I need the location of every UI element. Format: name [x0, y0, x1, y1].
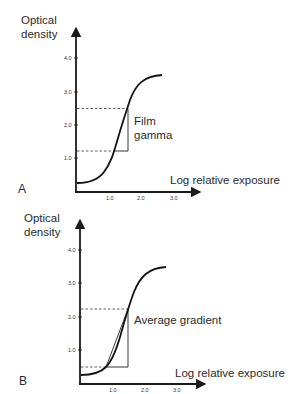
y-axis-label-line1: Optical: [21, 14, 57, 26]
x-axis-label: Log relative exposure: [175, 367, 285, 379]
annotation-film: Film: [134, 115, 156, 127]
y-axis-label-line2: density: [21, 28, 58, 40]
y-tick-label: 4.0: [68, 247, 76, 253]
x-ticks: 1.0 2.0 3.0: [109, 387, 181, 393]
panel-label-b: B: [19, 374, 27, 388]
panel-label-a: A: [18, 182, 26, 196]
y-tick-label: 1.0: [68, 347, 76, 353]
characteristic-curve-figure: Optical density 4.0 3.0 2.0 1.0 1.0 2.0 …: [0, 0, 291, 394]
x-tick-label: 2.0: [137, 195, 145, 201]
annotation-gamma: gamma: [134, 129, 173, 141]
x-tick-label: 1.0: [109, 387, 117, 393]
y-tick-label: 3.0: [64, 89, 72, 95]
x-tick-label: 2.0: [141, 387, 149, 393]
y-tick-label: 3.0: [68, 280, 76, 286]
annotation-average-gradient: Average gradient: [134, 314, 222, 326]
x-ticks: 1.0 2.0 3.0: [106, 195, 178, 201]
y-tick-label: 4.0: [64, 55, 72, 61]
x-axis-label: Log relative exposure: [170, 174, 280, 186]
y-axis-label-line2: density: [24, 226, 61, 238]
y-tick-label: 2.0: [68, 314, 76, 320]
x-tick-label: 3.0: [170, 195, 178, 201]
panel-a: Optical density 4.0 3.0 2.0 1.0 1.0 2.0 …: [18, 14, 280, 201]
y-tick-label: 1.0: [64, 155, 72, 161]
panel-b: Optical density 4.0 3.0 2.0 1.0 1.0 2.0 …: [19, 212, 285, 393]
x-tick-label: 1.0: [106, 195, 114, 201]
y-tick-label: 2.0: [64, 122, 72, 128]
x-tick-label: 3.0: [173, 387, 181, 393]
y-axis-label-line1: Optical: [24, 212, 60, 224]
